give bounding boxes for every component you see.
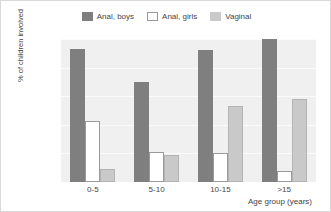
legend-label-anal-girls: Anal, girls [162, 12, 197, 21]
bar-boys [70, 49, 85, 182]
bar-vaginal [164, 155, 179, 182]
bar-boys [262, 39, 277, 182]
legend-item-anal-boys: Anal, boys [82, 12, 134, 21]
bar-boys [198, 50, 213, 182]
legend-swatch-anal-girls [147, 12, 158, 21]
bar-group [189, 39, 253, 182]
bar-vaginal [100, 169, 115, 182]
legend-swatch-anal-boys [82, 12, 93, 21]
bar-girls [149, 152, 164, 182]
x-tick-label: 10-15 [189, 186, 253, 194]
x-tick-label: 5-10 [125, 186, 189, 194]
bar-group [61, 39, 125, 182]
legend-label-vaginal: Vaginal [225, 12, 251, 21]
bar-boys [134, 82, 149, 182]
bar-girls [277, 171, 292, 182]
y-axis-title: % of children involved [16, 0, 25, 111]
bar-girls [85, 121, 100, 182]
plot-area [61, 39, 316, 182]
legend-item-anal-girls: Anal, girls [147, 12, 197, 21]
x-axis-title: Age group (years) [248, 198, 312, 206]
bar-girls [213, 153, 228, 182]
bar-group [125, 39, 189, 182]
legend-label-anal-boys: Anal, boys [97, 12, 134, 21]
bar-chart-figure: Anal, boys Anal, girls Vaginal % of chil… [0, 0, 331, 212]
bar-vaginal [228, 106, 243, 182]
legend-item-vaginal: Vaginal [210, 12, 251, 21]
chart-legend: Anal, boys Anal, girls Vaginal [1, 12, 331, 21]
legend-swatch-vaginal [210, 12, 221, 21]
bar-group [252, 39, 316, 182]
bar-vaginal [292, 99, 307, 182]
x-tick-label: 0-5 [61, 186, 125, 194]
x-tick-label: >15 [252, 186, 316, 194]
